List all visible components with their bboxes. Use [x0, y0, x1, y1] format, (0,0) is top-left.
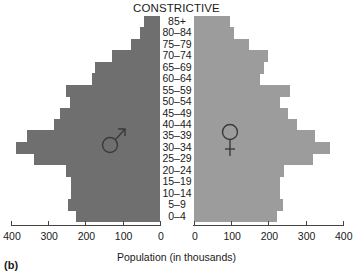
chart-title: CONSTRICTIVE — [0, 2, 353, 14]
bar-male — [76, 211, 160, 223]
bar-female — [194, 16, 230, 28]
bar-male — [144, 16, 160, 28]
tick-mark — [160, 221, 161, 226]
age-group-label: 15–19 — [160, 176, 194, 187]
bar-male — [66, 165, 160, 177]
tick-mark — [85, 221, 86, 226]
tick-label: 200 — [71, 230, 101, 242]
bar-male — [70, 96, 160, 108]
tick-label: 0 — [146, 230, 176, 242]
bar-male — [16, 142, 160, 154]
tick-label: 100 — [109, 230, 139, 242]
bar-male — [71, 176, 160, 188]
bar-female — [194, 188, 280, 200]
bar-female — [194, 211, 277, 223]
bar-male — [95, 62, 160, 74]
female-symbol-icon — [215, 118, 255, 168]
panel-label: (b) — [4, 259, 18, 271]
population-pyramid-chart: CONSTRICTIVE 85+80–8475–7970–7465–6960–6… — [0, 0, 353, 274]
tick-mark — [194, 221, 195, 226]
bar-female — [194, 176, 280, 188]
bar-male — [71, 188, 160, 200]
tick-label: 300 — [34, 230, 64, 242]
tick-label: 200 — [254, 230, 284, 242]
tick-label: 400 — [0, 230, 27, 242]
bar-female — [194, 27, 234, 39]
age-group-label: 50–54 — [160, 96, 194, 107]
age-group-label: 60–64 — [160, 73, 194, 84]
tick-label: 0 — [180, 230, 210, 242]
bar-female — [194, 50, 268, 62]
tick-mark — [11, 221, 12, 226]
bar-female — [194, 39, 249, 51]
bar-male — [27, 130, 160, 142]
x-axis-label: Population (in thousands) — [0, 251, 353, 263]
tick-mark — [231, 221, 232, 226]
tick-mark — [268, 221, 269, 226]
tick-mark — [343, 221, 344, 226]
bar-female — [194, 85, 290, 97]
age-group-label: 0–4 — [160, 211, 194, 222]
tick-label: 400 — [329, 230, 353, 242]
tick-mark — [48, 221, 49, 226]
tick-mark — [306, 221, 307, 226]
bar-female — [194, 199, 283, 211]
bar-male — [140, 27, 160, 39]
tick-mark — [123, 221, 124, 226]
bar-male — [68, 199, 160, 211]
bar-male — [92, 73, 160, 85]
male-symbol-icon — [95, 118, 135, 158]
bar-male — [112, 50, 160, 62]
age-group-label: 5–9 — [160, 199, 194, 210]
bar-male — [66, 85, 160, 97]
bar-female — [194, 62, 264, 74]
tick-label: 100 — [217, 230, 247, 242]
tick-label: 300 — [292, 230, 322, 242]
bar-male — [131, 39, 160, 51]
bar-female — [194, 96, 280, 108]
bar-female — [194, 73, 260, 85]
